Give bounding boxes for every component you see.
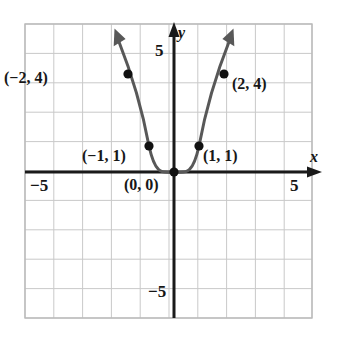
data-point-0-0 xyxy=(169,167,178,176)
graph-canvas: −5 5 5 −5 x y (−2, 4) (2, 4) (−1, 1) (1,… xyxy=(0,0,339,342)
y-axis-label-negative-five: −5 xyxy=(148,282,166,301)
point-label-neg1-1: (−1, 1) xyxy=(82,147,126,165)
coordinate-plane-figure: −5 5 5 −5 x y (−2, 4) (2, 4) (−1, 1) (1,… xyxy=(0,0,339,342)
y-axis-letter: y xyxy=(176,24,186,42)
point-label-0-0: (0, 0) xyxy=(124,176,159,194)
x-axis-label-negative-five: −5 xyxy=(30,176,48,195)
y-axis-label-five: 5 xyxy=(155,41,164,60)
data-point-2-4 xyxy=(219,69,228,78)
data-point-neg2-4 xyxy=(123,69,132,78)
x-axis-label-five: 5 xyxy=(290,176,299,195)
x-axis-letter: x xyxy=(309,148,318,165)
data-point-neg1-1 xyxy=(144,141,153,150)
point-label-neg2-4: (−2, 4) xyxy=(4,69,48,87)
point-label-2-4: (2, 4) xyxy=(232,75,267,93)
point-label-1-1: (1, 1) xyxy=(203,147,238,165)
